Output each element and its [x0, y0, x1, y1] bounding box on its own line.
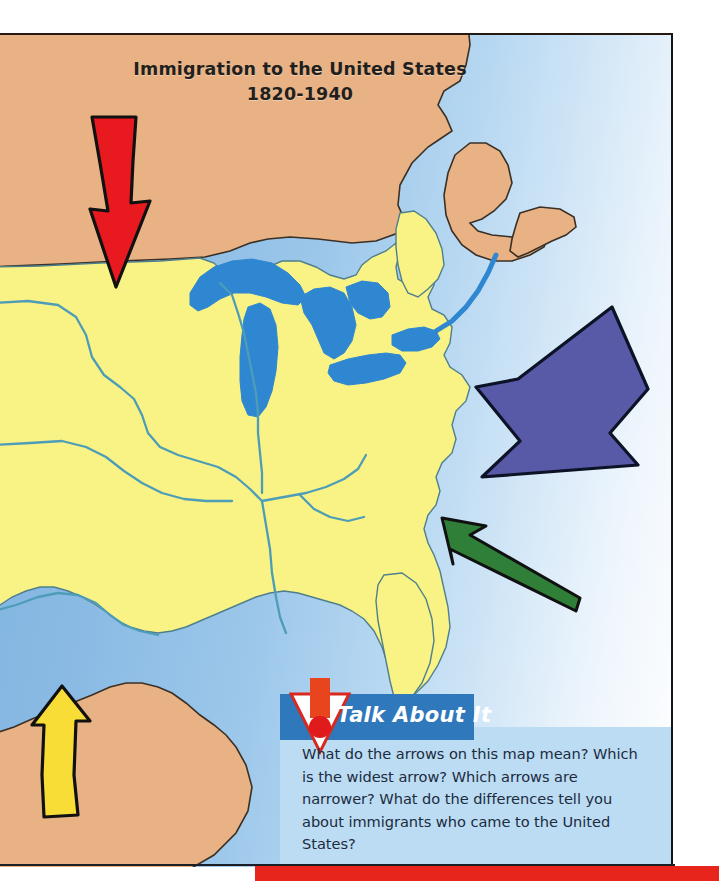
- map-figure: Immigration to the United States 1820-19…: [0, 33, 673, 867]
- callout-title: Talk About It: [337, 703, 491, 727]
- page-root: Immigration to the United States 1820-19…: [0, 0, 719, 881]
- page-footer-red-bar: [255, 866, 719, 881]
- mexico-landmass: [0, 683, 252, 867]
- nova-scotia: [510, 207, 576, 257]
- green-arrow-from-atlantic: [442, 518, 580, 611]
- blue-arrow-from-europe: [476, 307, 648, 477]
- callout-question-text: What do the arrows on this map mean? Whi…: [302, 743, 647, 856]
- talk-about-it-callout: Talk About It What do the arrows on this…: [280, 694, 673, 867]
- new-england-coast: [396, 211, 444, 297]
